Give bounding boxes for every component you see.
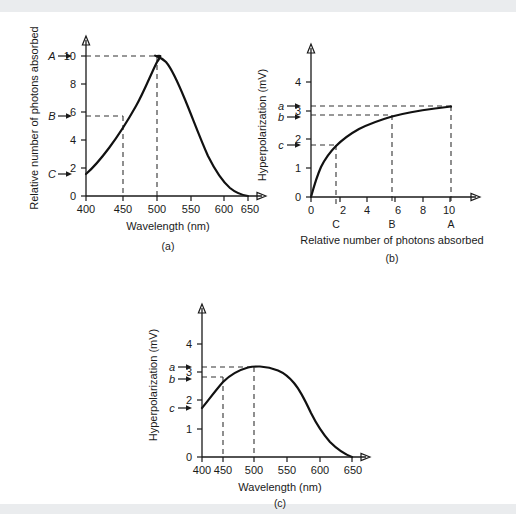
panel-c-ymarker-a-label: a [169,361,175,373]
panel-b-xmarker-A: A [447,218,454,230]
panel-b-ylabel-4: 4 [295,76,301,88]
panel-c-x-axis-title: Wavelength (nm) [238,481,321,493]
panel-b-xlabel-6: 6 [395,204,401,216]
panel-c-caption: (c) [274,497,286,509]
panel-a-xlabel-550: 550 [182,203,200,215]
panel-a-xlabel-650: 650 [241,203,259,215]
panel-c-xlabel-500: 500 [245,464,263,476]
panel-a-xlabel-500: 500 [148,203,166,215]
panel-a-ylabel-8: 8 [70,78,76,90]
panel-b: 0 1 2 3 4 0 2 4 6 8 10 C B A a b c Relat… [256,44,484,264]
panel-c-ymarker-b-label: b [169,373,175,385]
panel-a-xlabel-600: 600 [215,203,233,215]
panel-a-y-axis-title: Relative number of photons absorbed [28,26,40,209]
panel-b-xmarker-C: C [332,218,340,230]
panel-a-ylabel-0: 0 [70,190,76,202]
panel-b-ymarker-c-label: c [278,139,284,151]
panel-c-xlabel-600: 600 [311,464,329,476]
panel-b-ymarker-b-label: b [278,111,284,123]
panel-a-x-axis-title: Wavelength (nm) [126,220,209,232]
panel-b-xlabel-4: 4 [364,204,370,216]
panel-c-curve [202,366,352,457]
panel-b-ylabel-1: 1 [295,162,301,174]
panel-c-ymarker-c-label: c [169,402,175,414]
panel-c-y-axis-title: Hyperpolarization (mV) [147,329,159,441]
panel-a-marker-B-label: B [48,110,55,122]
panel-a-curve [86,56,248,196]
panel-c-ylabel-2: 2 [186,394,192,406]
panel-c-xlabel-550: 550 [278,464,296,476]
panel-c-ylabel-0: 0 [186,451,192,463]
panel-a-marker-A-label: A [47,50,55,62]
panel-b-xlabel-2: 2 [340,204,346,216]
panel-c-ylabel-1: 1 [186,423,192,435]
panel-a-ylabel-2: 2 [70,162,76,174]
panel-b-xlabel-10: 10 [443,204,455,216]
panel-a-xlabel-450: 450 [114,203,132,215]
panel-b-caption: (b) [386,252,399,264]
panel-b-xmarker-B: B [388,218,395,230]
panel-a: 0 2 4 6 8 10 400 450 500 550 600 650 A B… [28,26,266,252]
panel-b-curve [311,107,451,198]
panel-c-ymarker-c-arrowhead [186,405,192,411]
panel-b-xlabel-8: 8 [420,204,426,216]
panel-c-xlabel-400: 400 [193,464,211,476]
panel-c-ylabel-4: 4 [186,338,192,350]
panel-a-xlabel-400: 400 [77,203,95,215]
panel-c-xlabel-450: 450 [214,464,232,476]
figure-container: 0 2 4 6 8 10 400 450 500 550 600 650 A B… [0,0,516,514]
panel-b-ylabel-0: 0 [295,191,301,203]
panel-b-y-axis-title: Hyperpolarization (mV) [256,69,268,181]
panel-c-xlabel-650: 650 [344,464,362,476]
panel-a-caption: (a) [162,240,175,252]
panel-b-xlabel-0: 0 [308,204,314,216]
panel-c: 0 1 2 3 4 400 450 500 550 600 650 a b c … [147,304,370,509]
panel-a-marker-C-label: C [48,168,56,180]
panel-b-x-axis-title: Relative number of photons absorbed [300,234,483,246]
panel-a-ylabel-4: 4 [70,134,76,146]
